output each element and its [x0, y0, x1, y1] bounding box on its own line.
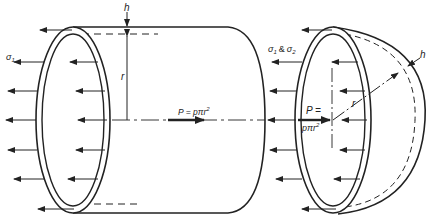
cylinder-radius-label: r [121, 71, 125, 82]
pressure-vessel-diagram: h r σ1 P = pπr2 [0, 0, 432, 223]
hemisphere-stress-label: σ1&σ2 [268, 44, 296, 55]
cylinder-thickness-label: h [124, 2, 130, 13]
diagram-svg: h r σ1 P = pπr2 [0, 0, 432, 223]
cylinder-section [6, 12, 265, 213]
cylinder-stress-label: σ1 [6, 52, 15, 63]
hemisphere-thickness-label: h [420, 49, 426, 60]
cylinder-force-label: P = pπr2 [178, 106, 210, 117]
hemisphere-section [268, 27, 425, 214]
hemisphere-force-label-line1: P = [306, 105, 321, 116]
